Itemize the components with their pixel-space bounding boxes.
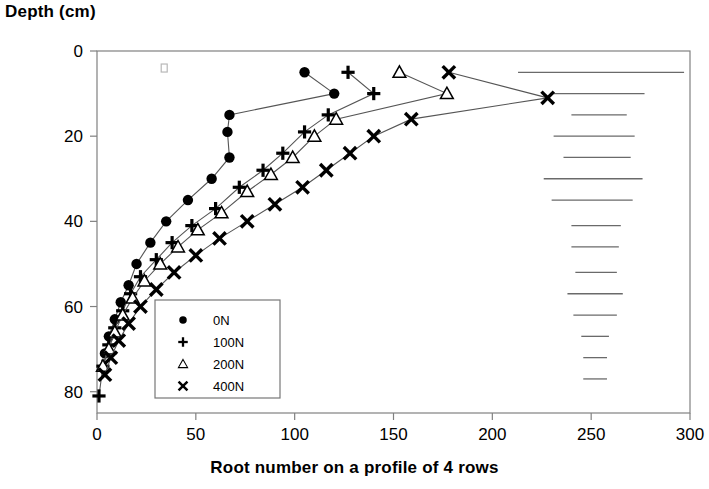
x-tick-label: 100	[280, 425, 308, 444]
x-tick-label: 250	[577, 425, 605, 444]
open-triangle-marker	[440, 87, 453, 98]
cross-x-marker	[168, 266, 180, 278]
legend-label-400n: 400N	[213, 379, 244, 394]
chart-legend: 0N100N200N400N	[155, 300, 280, 398]
cross-x-marker	[368, 130, 380, 142]
cross-x-marker	[541, 92, 553, 104]
chart-plot-area: 050100150200250300020406080 0N100N200N40…	[0, 0, 709, 489]
filled-circle-marker	[299, 67, 309, 77]
x-tick-label: 200	[478, 425, 506, 444]
root-depth-profile-chart: Depth (cm) 050100150200250300020406080 0…	[0, 0, 709, 489]
filled-circle-marker	[329, 88, 339, 98]
small-open-square-marker	[161, 64, 167, 72]
y-tick-label: 60	[64, 298, 83, 317]
cross-x-marker	[443, 66, 455, 78]
filled-circle-marker	[206, 174, 216, 184]
filled-circle-marker	[123, 280, 133, 290]
plus-marker	[341, 66, 354, 79]
filled-circle-marker	[224, 152, 234, 162]
x-tick-label: 150	[379, 425, 407, 444]
cross-x-marker	[269, 198, 281, 210]
cross-x-marker	[405, 113, 417, 125]
legend-label-0n: 0N	[213, 313, 230, 328]
cross-x-marker	[190, 249, 202, 261]
open-triangle-marker	[393, 66, 406, 77]
cross-x-marker	[296, 181, 308, 193]
cross-x-marker	[150, 283, 162, 295]
filled-circle-marker	[145, 237, 155, 247]
x-tick-label: 50	[186, 425, 205, 444]
x-axis-title: Root number on a profile of 4 rows	[0, 458, 709, 478]
annotation-bars	[518, 72, 684, 379]
filled-circle-marker	[183, 195, 193, 205]
filled-circle-marker	[179, 316, 186, 323]
y-tick-label: 0	[74, 42, 83, 61]
x-tick-label: 0	[92, 425, 101, 444]
filled-circle-marker	[224, 110, 234, 120]
y-tick-label: 80	[64, 383, 83, 402]
y-tick-label: 40	[64, 212, 83, 231]
filled-circle-marker	[131, 259, 141, 269]
y-tick-label: 20	[64, 127, 83, 146]
filled-circle-marker	[222, 127, 232, 137]
x-tick-label: 300	[676, 425, 704, 444]
cross-x-marker	[344, 147, 356, 159]
plus-marker	[367, 87, 380, 100]
cross-x-marker	[134, 300, 146, 312]
cross-x-marker	[320, 164, 332, 176]
cross-x-marker	[213, 232, 225, 244]
cross-x-marker	[241, 215, 253, 227]
filled-circle-marker	[161, 216, 171, 226]
stray-marker	[161, 64, 167, 72]
legend-label-200n: 200N	[213, 357, 244, 372]
legend-label-100n: 100N	[213, 335, 244, 350]
